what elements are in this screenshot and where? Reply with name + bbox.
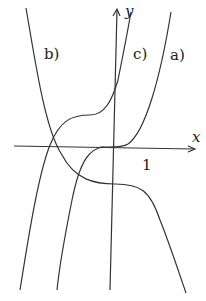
curve-label-b: b): [44, 47, 59, 62]
curve-a: [100, 12, 171, 147]
curve-label-a: a): [170, 48, 185, 63]
curve-c: [20, 12, 131, 290]
tick-label-1: 1: [142, 158, 152, 173]
y-axis: [110, 10, 117, 290]
curve-a-left-branch: [57, 147, 104, 290]
curve-label-c: c): [133, 47, 147, 62]
x-axis-label: x: [192, 130, 200, 145]
y-axis-label: y: [125, 4, 133, 19]
